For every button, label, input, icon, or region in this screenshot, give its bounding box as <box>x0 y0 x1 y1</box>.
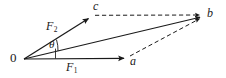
label-vector-f1-subscript: 1 <box>74 66 78 75</box>
label-point-a: a <box>130 55 136 67</box>
label-vector-f1: F1 <box>66 61 77 73</box>
construction-line-a-to-b <box>130 19 200 56</box>
label-point-c: c <box>93 0 98 12</box>
label-vector-f2: F2 <box>46 20 57 32</box>
label-vector-f2-base: F <box>46 19 53 33</box>
label-angle-theta: θ <box>49 39 54 50</box>
vector-diagram-figure: 0 a b c F1 F2 θ <box>0 0 226 78</box>
angle-arc-theta <box>57 40 59 51</box>
vector-diagram-canvas <box>0 0 226 78</box>
label-point-b: b <box>207 7 213 19</box>
label-vector-f1-base: F <box>66 60 73 74</box>
label-origin: 0 <box>10 51 17 64</box>
vector-f1-line <box>24 58 124 59</box>
label-vector-f2-subscript: 2 <box>54 25 58 34</box>
